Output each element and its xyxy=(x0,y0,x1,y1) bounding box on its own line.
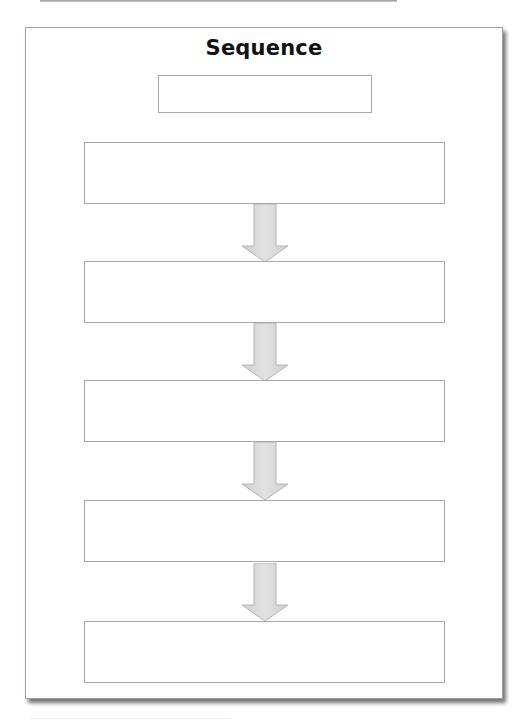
step-box-1[interactable] xyxy=(84,142,445,204)
top-divider xyxy=(40,0,397,2)
down-arrow-icon xyxy=(241,442,289,500)
title-entry-box[interactable] xyxy=(158,75,372,113)
step-box-5[interactable] xyxy=(84,621,445,683)
down-arrow-icon xyxy=(241,323,289,381)
bottom-divider xyxy=(30,718,230,719)
worksheet-title: Sequence xyxy=(26,36,502,60)
step-box-2[interactable] xyxy=(84,261,445,323)
step-box-4[interactable] xyxy=(84,500,445,562)
down-arrow-icon xyxy=(241,563,289,621)
step-box-3[interactable] xyxy=(84,380,445,442)
worksheet-card: Sequence xyxy=(25,27,503,699)
down-arrow-icon xyxy=(241,204,289,262)
